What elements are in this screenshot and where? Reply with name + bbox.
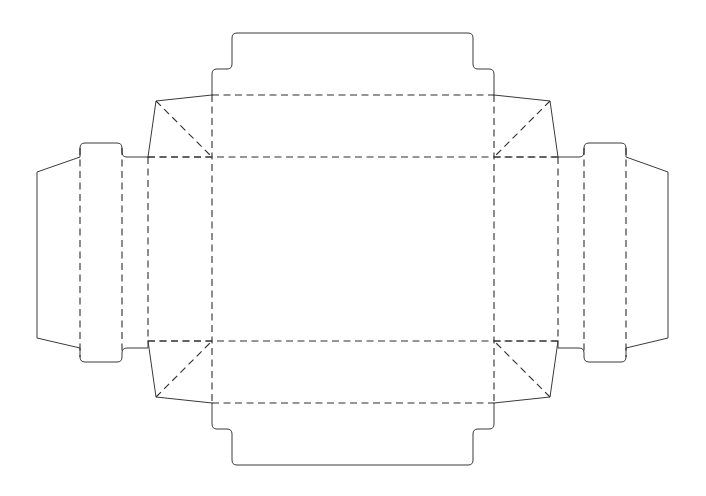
dieline-canvas bbox=[0, 0, 706, 496]
canvas-background bbox=[0, 0, 706, 496]
